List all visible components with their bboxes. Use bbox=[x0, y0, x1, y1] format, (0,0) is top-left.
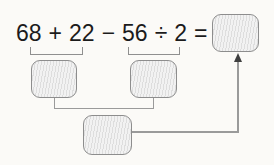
operand-56: 56 bbox=[122, 22, 148, 45]
divide-operator: ÷ bbox=[155, 22, 168, 45]
plus-operator: + bbox=[49, 22, 62, 45]
operand-2: 2 bbox=[174, 22, 187, 45]
minus-operator: − bbox=[102, 22, 115, 45]
final-answer-box[interactable] bbox=[212, 14, 259, 52]
combined-result-box[interactable] bbox=[83, 115, 132, 155]
worksheet-diagram: 68 + 22 − 56 ÷ 2 = bbox=[0, 0, 274, 165]
equals-sign: = bbox=[194, 22, 207, 45]
arrow-up-icon bbox=[234, 53, 242, 62]
underbrace-quotient-group bbox=[128, 47, 180, 55]
arrow-vertical-line bbox=[237, 59, 239, 132]
sum-step-box[interactable] bbox=[31, 60, 77, 98]
quotient-step-box[interactable] bbox=[130, 60, 177, 98]
step-joiner-lines bbox=[54, 98, 154, 109]
math-expression: 68 + 22 − 56 ÷ 2 = bbox=[16, 22, 208, 45]
underbrace-sum-group bbox=[30, 47, 83, 55]
operand-68: 68 bbox=[16, 22, 42, 45]
operand-22: 22 bbox=[69, 22, 95, 45]
arrow-horizontal-line bbox=[132, 131, 239, 133]
